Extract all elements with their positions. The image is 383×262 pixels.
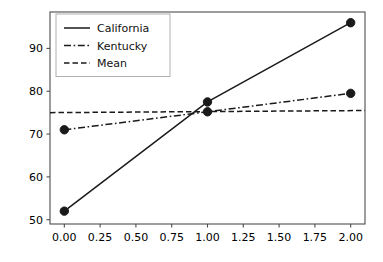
y-tick-label: 50	[29, 214, 43, 227]
chart-legend[interactable]: CaliforniaKentuckyMean	[56, 14, 170, 77]
x-tick-label: 0.75	[159, 231, 184, 244]
x-tick-label: 1.25	[231, 231, 256, 244]
data-point-marker	[203, 98, 211, 106]
y-tick-label: 80	[29, 85, 43, 98]
x-tick-label: 2.00	[338, 231, 363, 244]
x-tick-label: 1.50	[267, 231, 292, 244]
line-chart: 0.000.250.500.751.001.251.501.752.00 506…	[0, 0, 383, 262]
data-point-marker	[60, 126, 68, 134]
legend-label: Kentucky	[97, 40, 148, 53]
x-tick-label: 0.00	[52, 231, 77, 244]
x-tick-label: 1.75	[303, 231, 328, 244]
x-tick-label: 0.50	[124, 231, 149, 244]
x-tick-label: 0.25	[88, 231, 113, 244]
x-tick-label: 1.00	[195, 231, 220, 244]
y-tick-label: 60	[29, 171, 43, 184]
data-point-marker	[346, 89, 354, 97]
legend-label: Mean	[97, 57, 127, 70]
data-point-marker	[60, 207, 68, 215]
chart-figure: 0.000.250.500.751.001.251.501.752.00 506…	[0, 0, 383, 262]
y-tick-label: 90	[29, 42, 43, 55]
legend-label: California	[97, 22, 149, 35]
y-tick-label: 70	[29, 128, 43, 141]
data-point-marker	[346, 19, 354, 27]
